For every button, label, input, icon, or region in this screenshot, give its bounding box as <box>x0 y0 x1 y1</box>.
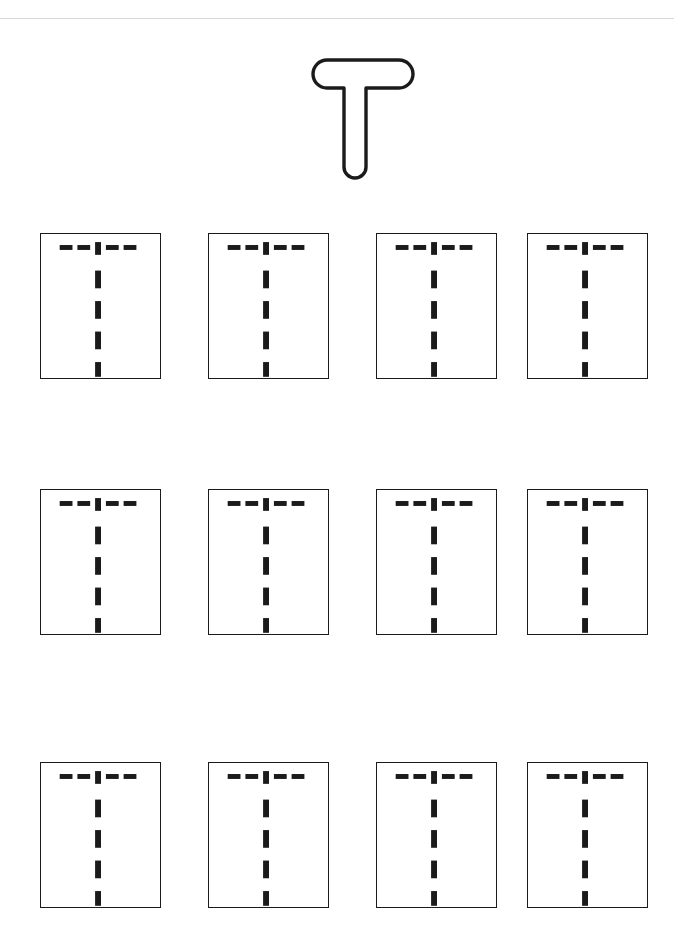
practice-box[interactable] <box>208 233 329 379</box>
trace-guide-dashes <box>528 234 647 378</box>
trace-guide-t <box>209 763 328 907</box>
practice-box[interactable] <box>527 489 648 635</box>
trace-guide-t <box>377 234 496 378</box>
practice-grid <box>40 233 649 917</box>
model-letter-t-outline <box>296 52 416 188</box>
practice-row <box>40 489 649 635</box>
trace-guide-dashes <box>209 234 328 378</box>
trace-guide-dashes <box>41 763 160 907</box>
trace-guide-dashes <box>528 763 647 907</box>
trace-guide-t <box>377 763 496 907</box>
trace-guide-t <box>528 234 647 378</box>
trace-guide-t <box>41 490 160 634</box>
trace-guide-dashes <box>377 763 496 907</box>
trace-guide-t <box>41 763 160 907</box>
trace-guide-dashes <box>377 234 496 378</box>
trace-guide-dashes <box>41 490 160 634</box>
trace-guide-dashes <box>528 490 647 634</box>
worksheet-page <box>0 0 689 951</box>
practice-box[interactable] <box>40 762 161 908</box>
trace-guide-t <box>209 490 328 634</box>
trace-guide-dashes <box>41 234 160 378</box>
trace-guide-t <box>41 234 160 378</box>
trace-guide-t <box>377 490 496 634</box>
practice-box[interactable] <box>527 762 648 908</box>
practice-row <box>40 233 649 379</box>
practice-box[interactable] <box>208 762 329 908</box>
practice-box[interactable] <box>40 233 161 379</box>
trace-guide-dashes <box>377 490 496 634</box>
practice-row <box>40 762 649 908</box>
practice-box[interactable] <box>40 489 161 635</box>
practice-box[interactable] <box>527 233 648 379</box>
practice-box[interactable] <box>376 233 497 379</box>
practice-box[interactable] <box>376 762 497 908</box>
header-rule <box>0 18 674 19</box>
trace-guide-dashes <box>209 490 328 634</box>
trace-guide-t <box>209 234 328 378</box>
trace-guide-t <box>528 763 647 907</box>
model-letter-t <box>296 52 416 188</box>
practice-box[interactable] <box>376 489 497 635</box>
trace-guide-t <box>528 490 647 634</box>
trace-guide-dashes <box>209 763 328 907</box>
practice-box[interactable] <box>208 489 329 635</box>
